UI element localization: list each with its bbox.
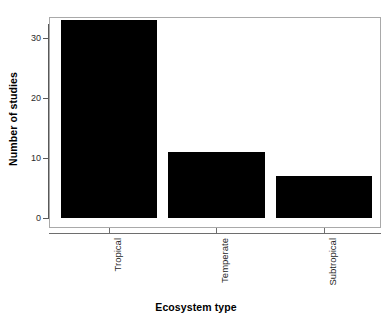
y-tick-mark-0 <box>43 218 48 219</box>
x-tick-label-subtropical: Subtropical <box>328 238 338 286</box>
y-axis-line <box>48 24 49 219</box>
bar-chart-figure: 0 10 20 30 Tropical Temperate Subtropica… <box>0 0 392 322</box>
y-tick-label-20: 20 <box>31 94 41 103</box>
y-tick-mark-20 <box>43 98 48 99</box>
x-tick-label-tropical: Tropical <box>113 238 123 271</box>
x-axis-title: Ecosystem type <box>0 301 392 313</box>
y-tick-mark-10 <box>43 158 48 159</box>
x-tick-mark-tropical <box>109 228 110 233</box>
y-tick-mark-30 <box>43 38 48 39</box>
y-tick-label-10: 10 <box>31 154 41 163</box>
x-tick-mark-subtropical <box>324 228 325 233</box>
y-tick-label-30: 30 <box>31 34 41 43</box>
x-tick-label-temperate: Temperate <box>220 238 230 283</box>
x-axis-line <box>49 233 381 234</box>
x-tick-mark-temperate <box>216 228 217 233</box>
plot-area-frame <box>49 17 381 228</box>
y-tick-label-0: 0 <box>36 214 41 223</box>
y-axis-title: Number of studies <box>7 72 19 166</box>
